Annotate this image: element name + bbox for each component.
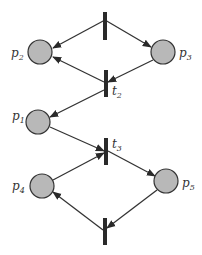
arc-t2-p1 [50, 90, 104, 117]
transition-t3 [104, 138, 108, 165]
arc-t1-p3 [105, 20, 151, 47]
arc-t4-p4 [53, 192, 103, 230]
label-p2: p2 [11, 46, 24, 62]
arc-p5-t4 [107, 190, 157, 228]
arc-p3-t2 [108, 60, 153, 82]
label-p3: p3 [179, 46, 192, 62]
arc-p1-t3 [50, 127, 104, 151]
arc-t2-p2 [53, 57, 104, 82]
transition-t4 [103, 218, 107, 245]
label-t3: t3 [112, 137, 122, 153]
arc-t1-p2 [53, 20, 105, 48]
place-p1 [26, 110, 50, 134]
petri-net-diagram: p2 p3 p1 p4 p5 t2 t3 [0, 0, 202, 255]
label-p1: p1 [12, 109, 25, 125]
place-p5 [154, 169, 178, 193]
label-t2: t2 [112, 84, 122, 100]
label-p5: p5 [182, 176, 195, 192]
place-p2 [28, 40, 52, 64]
arc-p4-t3 [53, 153, 104, 180]
place-p3 [151, 40, 175, 64]
arc-t3-p5 [108, 151, 155, 176]
transition-t1 [103, 12, 107, 40]
place-p4 [30, 174, 54, 198]
transition-t2 [104, 70, 108, 97]
label-p4: p4 [12, 179, 25, 195]
